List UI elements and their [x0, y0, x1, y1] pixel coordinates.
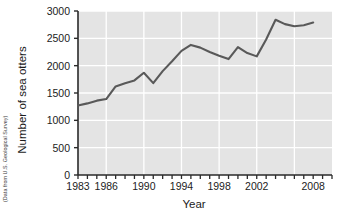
x-axis-tick-labels: 1983198619901994199820022008 — [0, 0, 347, 222]
x-tick-label: 2002 — [245, 180, 268, 192]
x-tick-label: 1998 — [207, 180, 230, 192]
x-tick-label: 1990 — [132, 180, 155, 192]
x-tick-label: 1983 — [66, 180, 89, 192]
sea-otter-population-chart: (Data from U.S. Geological Survey) Numbe… — [0, 0, 347, 222]
x-tick-label: 1994 — [170, 180, 193, 192]
x-tick-label: 2008 — [301, 180, 324, 192]
x-tick-label: 1986 — [95, 180, 118, 192]
